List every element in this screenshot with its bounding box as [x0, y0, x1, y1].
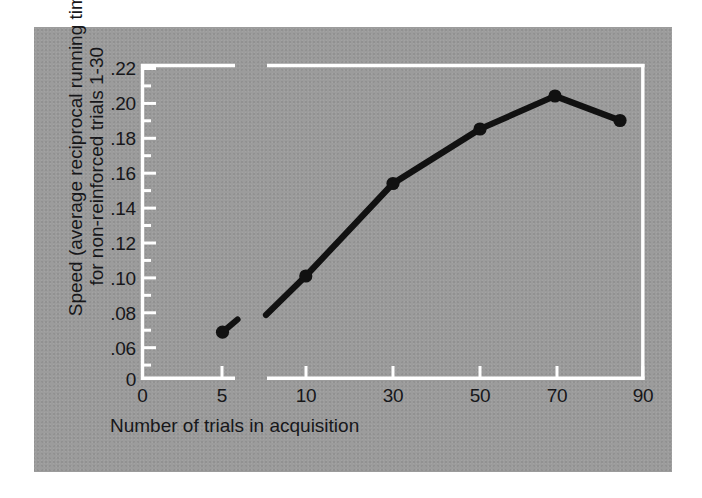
y-tick-label-06: .06: [84, 338, 136, 360]
x-tick-label-50: 50: [460, 385, 500, 407]
data-point-marker: [386, 177, 399, 190]
data-point-marker: [613, 114, 626, 127]
y-axis-title-line-1: Speed (average reciprocal running time): [65, 16, 86, 316]
data-point-marker: [299, 269, 312, 282]
x-tick-label-90: 90: [623, 385, 663, 407]
x-axis-ticks: [143, 366, 643, 378]
data-point-marker: [473, 122, 486, 135]
chart-plot-area: .22 .20 .18 .16 .14 .12 .10 .08 .06 0 0 …: [34, 27, 672, 472]
x-tick-label-5: 5: [202, 385, 242, 407]
x-tick-label-70: 70: [537, 385, 577, 407]
x-tick-label-30: 30: [373, 385, 413, 407]
data-series-speed: [216, 89, 627, 338]
figure-panel: .22 .20 .18 .16 .14 .12 .10 .08 .06 0 0 …: [34, 27, 672, 472]
data-point-marker: [548, 89, 561, 102]
x-tick-label-0: 0: [123, 385, 163, 407]
x-tick-label-10: 10: [286, 385, 326, 407]
y-axis-title: Speed (average reciprocal running time) …: [65, 16, 108, 316]
x-axis-title: Number of trials in acquisition: [110, 415, 359, 437]
y-axis-title-line-2: for non-reinforced trials 1-30: [86, 16, 107, 316]
series-line-segment-2: [266, 96, 620, 315]
data-point-marker: [216, 326, 229, 339]
